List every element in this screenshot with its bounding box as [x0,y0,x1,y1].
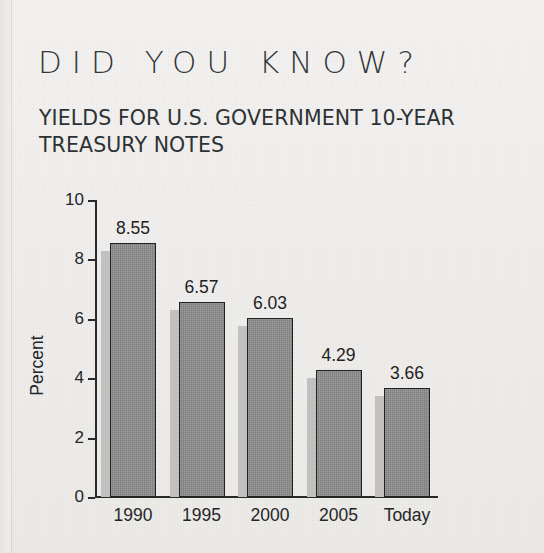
y-tick-mark [88,319,95,321]
bar [179,302,225,497]
x-tick-label: 1990 [98,505,168,526]
y-tick-mark [88,259,95,261]
y-tick-label: 6 [54,309,84,329]
bar-value-label: 3.66 [374,363,440,384]
y-tick-mark [88,438,95,440]
y-tick-mark [88,497,95,499]
y-tick-label: 4 [54,368,84,388]
x-tick-label: 2000 [235,505,305,526]
bar-chart: 0246810 Percent 8.556.576.034.293.66 199… [0,0,544,553]
y-axis-line [95,200,97,498]
page-canvas: DID YOU KNOW? YIELDS FOR U.S. GOVERNMENT… [0,0,544,553]
y-tick-label: 0 [54,487,84,507]
y-tick-mark [88,378,95,380]
x-tick-label: 2005 [304,505,374,526]
bar-value-label: 8.55 [100,218,166,239]
y-tick-label: 8 [54,249,84,269]
bar-value-label: 6.03 [237,293,303,314]
y-tick-label: 2 [54,428,84,448]
y-tick-mark [88,200,95,202]
x-tick-label: Today [372,505,442,526]
bar-value-label: 4.29 [306,345,372,366]
bar [247,318,293,497]
bar [384,388,430,497]
bar-value-label: 6.57 [169,277,235,298]
bar [316,370,362,497]
x-tick-label: 1995 [167,505,237,526]
y-tick-label: 10 [54,190,84,210]
y-axis-label: Percent [27,311,48,421]
bar [110,243,156,497]
